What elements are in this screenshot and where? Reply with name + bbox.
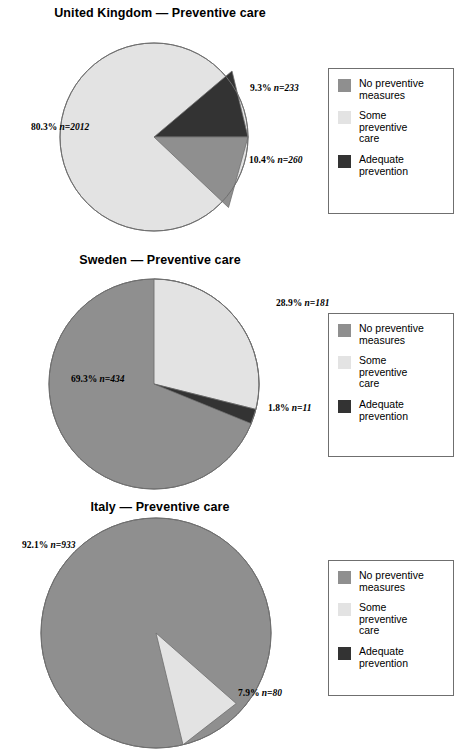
slice-label-percent: 1.8% [268,403,289,413]
slice-label-se-no-preventive-measures: 69.3% n=434 [71,375,124,385]
legend-label-some-preventive-care: Some preventive care [359,602,407,637]
slice-label-percent: 28.9% [276,298,302,308]
legend-label-adequate-prevention: Adequate prevention [359,646,408,669]
legend-item-no-preventive-measures: No preventive measures [338,570,446,593]
legend-sweden: No preventive measures Some preventive c… [328,313,454,457]
slice-label-percent: 9.3% [250,83,271,93]
slice-label-it-some-preventive-care: 7.9% n=80 [238,689,282,699]
legend-item-no-preventive-measures: No preventive measures [338,323,446,346]
legend-item-adequate-prevention: Adequate prevention [338,154,446,177]
legend-swatch-icon-some-preventive-care [338,356,351,369]
slice-label-percent: 92.1% [22,540,48,550]
slice-label-se-adequate-prevention: 1.8% n=11 [268,404,311,414]
legend-item-some-preventive-care: Some preventive care [338,355,446,390]
chart-title-italy: Italy — Preventive care [0,500,320,514]
legend-label-some-preventive-care: Some preventive care [359,355,407,390]
slice-label-it-no-preventive-measures: 92.1% n=933 [22,541,75,551]
slice-label-percent: 69.3% [71,374,97,384]
slice-label-percent: 10.4% [249,155,275,165]
legend-united-kingdom: No preventive measures Some preventive c… [328,68,454,214]
chart-panel-sweden: Sweden — Preventive care 28.9% n=181 69.… [0,245,458,495]
slice-label-count: n=181 [305,298,330,308]
legend-swatch-icon-adequate-prevention [338,155,351,168]
legend-swatch-icon-adequate-prevention [338,400,351,413]
slice-label-count: n=80 [262,688,282,698]
slice-label-count: n=434 [100,374,125,384]
slice-label-uk-no-preventive-measures: 10.4% n=260 [249,156,302,166]
legend-item-adequate-prevention: Adequate prevention [338,646,446,669]
legend-swatch-icon-no-preventive-measures [338,79,351,92]
slice-label-percent: 7.9% [238,688,259,698]
legend-swatch-icon-adequate-prevention [338,647,351,660]
legend-item-adequate-prevention: Adequate prevention [338,399,446,422]
legend-swatch-icon-some-preventive-care [338,603,351,616]
legend-label-adequate-prevention: Adequate prevention [359,154,408,177]
slice-label-uk-some-preventive-care: 80.3% n=2012 [31,123,89,133]
legend-swatch-icon-no-preventive-measures [338,571,351,584]
slice-label-percent: 80.3% [31,122,57,132]
slice-label-count: n=233 [274,83,299,93]
pie-chart-italy [40,517,272,749]
chart-panel-italy: Italy — Preventive care 92.1% n=933 7.9%… [0,495,458,754]
pie-svg-united-kingdom [59,42,249,232]
slice-label-count: n=933 [51,540,76,550]
chart-title-united-kingdom: United Kingdom — Preventive care [0,6,320,20]
chart-panel-united-kingdom: United Kingdom — Preventive care 9.3% n=… [0,0,458,245]
pie-svg-italy [40,517,272,749]
legend-label-adequate-prevention: Adequate prevention [359,399,408,422]
legend-swatch-icon-no-preventive-measures [338,324,351,337]
slice-label-count: n=11 [292,403,312,413]
legend-item-no-preventive-measures: No preventive measures [338,78,446,101]
slice-label-se-some-preventive-care: 28.9% n=181 [276,299,329,309]
slice-label-uk-adequate-prevention: 9.3% n=233 [250,84,299,94]
legend-label-some-preventive-care: Some preventive care [359,110,407,145]
legend-label-no-preventive-measures: No preventive measures [359,570,424,593]
legend-italy: No preventive measures Some preventive c… [328,560,454,696]
legend-item-some-preventive-care: Some preventive care [338,110,446,145]
slice-label-count: n=2012 [60,122,90,132]
chart-title-sweden: Sweden — Preventive care [0,253,320,267]
legend-swatch-icon-some-preventive-care [338,111,351,124]
legend-label-no-preventive-measures: No preventive measures [359,323,424,346]
legend-item-some-preventive-care: Some preventive care [338,602,446,637]
legend-label-no-preventive-measures: No preventive measures [359,78,424,101]
slice-label-count: n=260 [278,155,303,165]
pie-chart-united-kingdom [59,42,249,232]
